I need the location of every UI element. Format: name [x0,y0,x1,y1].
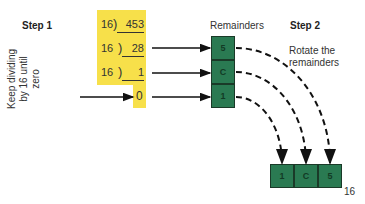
dashed-arc-arrow-icon [236,72,306,163]
dashed-arc-arrow-icon [236,48,330,163]
dashed-arc-arrow-icon [236,97,282,163]
diagram-arrows [0,0,365,204]
